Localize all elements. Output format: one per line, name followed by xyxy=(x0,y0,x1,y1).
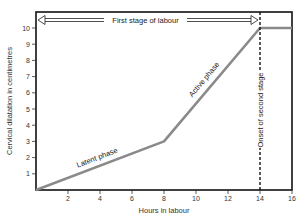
plot-frame xyxy=(36,12,292,190)
x-tick-label: 8 xyxy=(162,195,166,202)
y-axis-tick-labels: 1 2 3 4 5 6 7 8 9 10 xyxy=(22,25,30,178)
x-axis-tick-labels: 2 4 6 8 10 12 14 16 xyxy=(66,195,296,202)
y-tick-label: 3 xyxy=(26,138,30,145)
arrow-left-icon xyxy=(38,16,45,25)
dilatation-curve xyxy=(36,28,292,190)
arrow-right-icon xyxy=(251,16,258,25)
second-stage-label: Onset of second stage xyxy=(256,72,265,147)
y-tick-label: 4 xyxy=(26,122,30,129)
y-tick-label: 8 xyxy=(26,57,30,64)
y-tick-label: 10 xyxy=(22,25,30,32)
x-tick-label: 6 xyxy=(130,195,134,202)
x-tick-label: 10 xyxy=(192,195,200,202)
y-tick-label: 5 xyxy=(26,106,30,113)
y-tick-label: 1 xyxy=(26,170,30,177)
first-stage-label: First stage of labour xyxy=(112,16,179,25)
y-tick-label: 2 xyxy=(26,154,30,161)
x-tick-label: 14 xyxy=(256,195,264,202)
x-tick-label: 12 xyxy=(224,195,232,202)
y-tick-label: 7 xyxy=(26,73,30,80)
labour-chart: 1 2 3 4 5 6 7 8 9 10 2 4 6 8 10 12 14 16… xyxy=(0,0,303,224)
x-tick-label: 2 xyxy=(66,195,70,202)
x-tick-label: 4 xyxy=(98,195,102,202)
x-tick-label: 16 xyxy=(288,195,296,202)
y-axis-title: Cervical dilatation in centimetres xyxy=(5,47,14,155)
y-tick-label: 6 xyxy=(26,89,30,96)
y-tick-label: 9 xyxy=(26,41,30,48)
x-axis-title: Hours in labour xyxy=(139,206,190,215)
